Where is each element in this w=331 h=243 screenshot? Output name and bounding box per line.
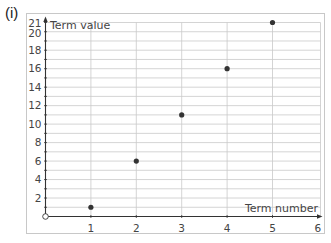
data-point (134, 158, 139, 163)
data-point (88, 205, 93, 210)
data-point (179, 112, 184, 117)
y-axis-label: Term value (49, 19, 110, 32)
chart-frame (27, 14, 325, 234)
y-tick-label: 12 (28, 99, 41, 111)
origin-circle-icon (43, 214, 49, 220)
y-tick-label: 4 (35, 173, 42, 185)
x-tick-label: 5 (269, 222, 276, 234)
data-point (270, 20, 275, 25)
y-tick-label: 18 (28, 44, 41, 56)
scatter-chart: 123456246810121416182021 Term value Term… (0, 0, 331, 243)
y-tick-label: 10 (28, 118, 41, 130)
y-tick-label: 8 (35, 136, 42, 148)
data-point (225, 66, 230, 71)
x-tick-label: 2 (133, 222, 140, 234)
x-tick-label: 3 (178, 222, 185, 234)
y-tick-label: 14 (28, 81, 42, 93)
x-tick-label: 1 (88, 222, 95, 234)
x-tick-label: 6 (315, 222, 322, 234)
y-tick-label: 16 (28, 62, 42, 74)
y-tick-label: 21 (28, 17, 41, 29)
y-tick-label: 6 (35, 155, 42, 167)
y-tick-label: 2 (35, 192, 42, 204)
x-tick-label: 4 (224, 222, 231, 234)
x-axis-label: Term number (244, 202, 319, 215)
